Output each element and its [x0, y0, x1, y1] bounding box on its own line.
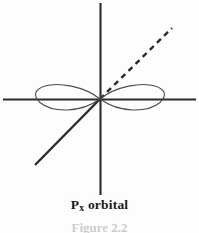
- orbital-label-subscript: x: [79, 203, 84, 213]
- orbital-label-word: orbital: [88, 197, 128, 212]
- figure-caption: Figure 2.2: [0, 221, 199, 233]
- solid-diagonal-axis-line: [35, 99, 100, 165]
- orbital-label-symbol: P: [71, 197, 79, 212]
- px-orbital-figure: Pxorbital Figure 2.2: [0, 0, 199, 233]
- orbital-label: Pxorbital: [0, 197, 199, 216]
- orbital-lobe-left: [36, 85, 100, 110]
